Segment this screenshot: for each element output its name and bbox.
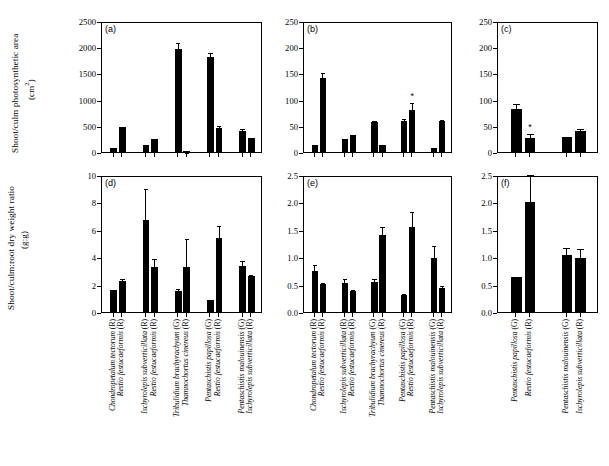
plot-area [303, 176, 452, 313]
bar [248, 276, 255, 312]
error-bar-cap [321, 283, 325, 284]
plot-area: * [497, 22, 598, 153]
y-axis-tick-label: 1.0 [287, 253, 298, 263]
x-axis-tick [403, 313, 404, 317]
y-axis-tick [299, 48, 303, 49]
x-axis-tick [580, 153, 581, 157]
y-axis-tick-label: 8 [92, 198, 96, 208]
y-axis-tick-label: 2.0 [481, 198, 492, 208]
bar [575, 131, 586, 152]
error-bar-cap [313, 265, 317, 266]
y-axis-tick [493, 48, 497, 49]
x-axis-tick [121, 313, 122, 317]
x-axis-tick [411, 153, 412, 157]
y-axis-tick [97, 203, 101, 204]
bar [350, 291, 356, 312]
error-bar-cap [144, 189, 148, 190]
x-axis-tick [373, 153, 374, 157]
bar [151, 267, 158, 312]
bar [342, 283, 348, 312]
error-bar [412, 212, 413, 228]
error-bar [412, 103, 413, 111]
x-axis-tick-label: Pentaschistis malouinensis (G) [238, 319, 246, 414]
bar [143, 220, 150, 312]
bar [401, 121, 407, 152]
y-axis-tick [493, 231, 497, 232]
bar [371, 122, 377, 152]
y-axis-tick [493, 176, 497, 177]
x-axis-tick [177, 313, 178, 317]
chart-panel-c: *(c)050100150200250 [497, 22, 598, 153]
error-bar-cap [513, 104, 520, 105]
y-axis-tick-label: 200 [479, 43, 492, 53]
error-bar [210, 53, 211, 60]
x-axis-tick [566, 313, 567, 317]
error-bar-cap [112, 149, 116, 150]
y-axis-tick-label: 50 [289, 122, 298, 132]
error-bar-cap [577, 249, 584, 250]
error-bar-cap [440, 120, 444, 121]
x-axis-tick [154, 153, 155, 157]
bar [525, 138, 536, 152]
y-axis-tick-label: 50 [483, 122, 492, 132]
y-axis-tick [299, 286, 303, 287]
y-axis-tick-label: 1.5 [287, 226, 298, 236]
y-axis-tick [299, 258, 303, 259]
chart-panel-b: *(b)050100150200250 [303, 22, 452, 153]
x-axis-tick [411, 313, 412, 317]
y-axis-tick-label: 2.0 [287, 198, 298, 208]
error-bar [219, 226, 220, 240]
bar [110, 290, 117, 312]
y-axis-tick [97, 22, 101, 23]
plot-area [101, 176, 262, 313]
y-axis-tick-label: 250 [479, 17, 492, 27]
y-axis-tick-label: 1500 [79, 69, 96, 79]
error-bar-cap [176, 43, 180, 44]
error-bar [530, 175, 531, 203]
y-axis-tick [97, 231, 101, 232]
bar [575, 258, 586, 312]
x-axis-tick-label: Ischyrolepis subverticillata (R) [246, 319, 254, 414]
y-axis-tick-label: 2500 [79, 17, 96, 27]
y-axis-tick-label: 2000 [79, 43, 96, 53]
bar [175, 49, 182, 152]
error-bar-cap [351, 290, 355, 291]
bar [207, 57, 214, 152]
error-bar-cap [249, 275, 253, 276]
error-bar [322, 73, 323, 80]
error-bar [154, 259, 155, 269]
y-axis-tick-label: 250 [285, 17, 298, 27]
error-bar-cap [240, 129, 244, 130]
x-axis-tick [344, 313, 345, 317]
error-bar-cap [176, 289, 180, 290]
x-axis-tick [177, 153, 178, 157]
bar [119, 127, 126, 152]
figure-panel-grid: Shoot/culm photosynthetic area (cm2) Sho… [0, 0, 609, 466]
y-axis-tick-label: 10 [87, 171, 96, 181]
y-axis-tick-label: 2.5 [287, 171, 298, 181]
error-bar-cap [112, 290, 116, 291]
error-bar [242, 261, 243, 268]
x-axis-tick [373, 313, 374, 317]
x-axis-tick [242, 153, 243, 157]
error-bar [434, 246, 435, 261]
x-axis-tick-label: Restio festucaeformis (R) [150, 319, 158, 396]
y-axis-tick [97, 286, 101, 287]
error-bar-cap [513, 277, 520, 278]
error-bar-cap [208, 53, 212, 54]
y-axis-tick [97, 313, 101, 314]
error-bar-cap [217, 226, 221, 227]
y-axis-tick [97, 127, 101, 128]
panel-label: (c) [501, 24, 512, 34]
plot-area [497, 176, 598, 313]
error-bar [186, 239, 187, 269]
error-bar-cap [185, 239, 189, 240]
x-axis-tick-label: Ischyrolepis subverticillata (R) [141, 319, 149, 414]
error-bar-cap [208, 301, 212, 302]
bar [525, 202, 536, 312]
y-axis-tick [97, 176, 101, 177]
y-axis-tick [97, 74, 101, 75]
bar [371, 282, 377, 312]
y-axis-tick [299, 203, 303, 204]
error-bar-cap [343, 279, 347, 280]
